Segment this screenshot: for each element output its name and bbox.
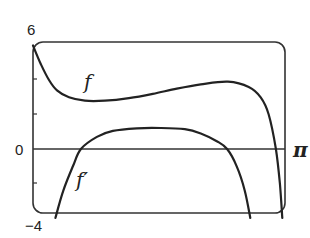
y-tick-label-zero: 0 bbox=[15, 142, 23, 157]
y-tick-label-bottom: −4 bbox=[25, 218, 42, 233]
curve-label-f: f bbox=[84, 72, 91, 92]
curve-label-fprime: f′ bbox=[76, 170, 88, 190]
series-layer bbox=[33, 46, 282, 219]
x-tick-label-pi: π bbox=[293, 140, 308, 160]
y-tick-label-top: 6 bbox=[27, 22, 35, 37]
chart-canvas bbox=[0, 0, 310, 238]
